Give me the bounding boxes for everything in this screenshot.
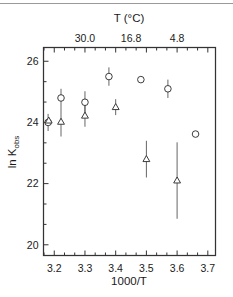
y-axis-title: ln Kobs xyxy=(6,136,21,169)
arrhenius-plot: T (°C) 30.016.84.8 3.23.33.43.53.63.7 20… xyxy=(0,0,233,297)
y-axis-title-main: ln K xyxy=(6,148,18,168)
y-tick-label: 24 xyxy=(27,116,39,128)
y-tick-label: 26 xyxy=(27,55,39,67)
x-tick-label: 3.2 xyxy=(47,262,62,274)
data-point-triangle xyxy=(174,177,181,183)
axis-tickmarks xyxy=(44,48,208,256)
figure-container: T (°C) 30.016.84.8 3.23.33.43.53.63.7 20… xyxy=(0,0,233,297)
top-tick-label: 16.8 xyxy=(121,32,142,44)
x-tick-label: 3.4 xyxy=(108,262,123,274)
data-point-circle xyxy=(106,73,113,80)
x-tick-label: 3.3 xyxy=(78,262,93,274)
data-point-circle xyxy=(138,76,145,83)
data-markers xyxy=(45,73,199,183)
data-point-triangle xyxy=(112,104,119,110)
top-axis-tick-labels: 30.016.84.8 xyxy=(75,32,185,44)
y-axis-tick-labels: 20222426 xyxy=(27,55,39,251)
y-tick-label: 20 xyxy=(27,239,39,251)
x-axis-title: 1000/T xyxy=(111,275,147,287)
y-axis-title-subscript: obs xyxy=(12,136,21,149)
data-point-circle xyxy=(58,95,65,102)
y-axis-title-group: ln Kobs xyxy=(6,136,21,169)
y-tick-label: 22 xyxy=(27,177,39,189)
top-tick-label: 30.0 xyxy=(75,32,96,44)
x-tick-label: 3.6 xyxy=(170,262,185,274)
data-point-circle xyxy=(165,85,172,92)
x-axis-tick-labels: 3.23.33.43.53.63.7 xyxy=(47,262,215,274)
fitted-curves xyxy=(208,184,214,258)
data-point-triangle xyxy=(82,112,89,118)
top-tick-label: 4.8 xyxy=(170,32,185,44)
plot-frame xyxy=(44,48,216,256)
error-bars xyxy=(48,67,177,218)
data-point-circle xyxy=(82,99,89,106)
top-axis-title: T (°C) xyxy=(114,12,145,24)
x-tick-label: 3.5 xyxy=(139,262,154,274)
data-point-triangle xyxy=(143,156,150,162)
data-point-circle xyxy=(192,131,199,138)
data-point-triangle xyxy=(58,118,65,124)
x-tick-label: 3.7 xyxy=(201,262,216,274)
